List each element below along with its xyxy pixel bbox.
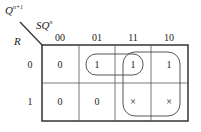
col-header-11: 11	[115, 33, 151, 43]
col-header-01: 01	[79, 33, 115, 43]
cell-r1-c11: ×	[115, 97, 151, 107]
cell-r0-c01: 1	[79, 60, 115, 70]
row-header-0: 0	[22, 60, 38, 70]
cell-r1-c10: ×	[151, 97, 187, 107]
cell-r0-c10: 1	[151, 60, 187, 70]
col-header-00: 00	[42, 33, 78, 43]
cell-r0-c00: 0	[42, 60, 78, 70]
output-label: Qn+1	[5, 5, 23, 16]
row-variable-label: R	[14, 36, 21, 47]
column-variable-label: SQn	[36, 20, 52, 31]
row-header-1: 1	[22, 97, 38, 107]
cell-r1-c01: 0	[79, 97, 115, 107]
cell-r0-c11: 1	[115, 60, 151, 70]
cell-r1-c00: 0	[42, 97, 78, 107]
col-header-10: 10	[151, 33, 187, 43]
